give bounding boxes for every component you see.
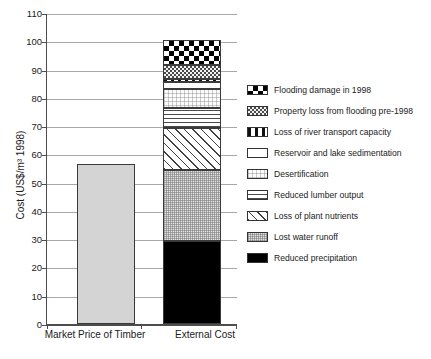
bar-segment-lost-water-runoff[interactable] (163, 170, 221, 241)
y-axis-tick-label-110: 110 (12, 9, 42, 19)
legend-item-label: Desertification (274, 169, 328, 179)
legend-swatch-icon (247, 127, 268, 137)
y-axis-tick (42, 155, 47, 156)
x-axis-label-external-cost: External Cost (140, 329, 270, 340)
bar-segment-reduced-lumber-output[interactable] (163, 108, 221, 128)
legend-item-reduced-lumber-output[interactable]: Reduced lumber output (247, 184, 429, 205)
legend-item-label: Flooding damage in 1998 (274, 85, 371, 95)
y-axis-tick-labels: 0102030405060708090100110 (8, 14, 42, 325)
plot-area (46, 14, 236, 325)
legend-swatch-icon (247, 232, 268, 242)
legend-item-loss-of-river-transport-capacity[interactable]: Loss of river transport capacity (247, 121, 429, 142)
y-axis-tick-label-70: 70 (12, 122, 42, 132)
legend-item-lost-water-runoff[interactable]: Lost water runoff (247, 226, 429, 247)
y-axis-tick (42, 240, 47, 241)
y-axis-tick-label-100: 100 (12, 37, 42, 47)
y-axis-tick (42, 99, 47, 100)
y-axis-tick-label-10: 10 (12, 292, 42, 302)
bar-segment-reservoir-and-lake-sedimentation[interactable] (163, 82, 221, 89)
gridline-0 (47, 325, 237, 326)
legend-item-loss-of-plant-nutrients[interactable]: Loss of plant nutrients (247, 205, 429, 226)
y-axis-tick (42, 14, 47, 15)
y-axis-tick-label-30: 30 (12, 235, 42, 245)
y-axis-tick-label-90: 90 (12, 66, 42, 76)
bar-external-cost[interactable] (163, 40, 221, 324)
legend-swatch-icon (247, 211, 268, 221)
legend-swatch-icon (247, 253, 268, 263)
y-axis-tick-label-60: 60 (12, 150, 42, 160)
y-axis-tick-label-40: 40 (12, 207, 42, 217)
bar-segment-reduced-precipitation[interactable] (163, 241, 221, 324)
y-axis-tick (42, 297, 47, 298)
bar-segment-property-loss-from-flooding-pre-1998[interactable] (163, 65, 221, 79)
y-axis-tick (42, 71, 47, 72)
legend-item-reservoir-and-lake-sedimentation[interactable]: Reservoir and lake sedimentation (247, 142, 429, 163)
bar-segment-market-price[interactable] (77, 164, 135, 324)
chart-figure: Cost (US$/m³ 1998) 010203040506070809010… (0, 0, 431, 359)
legend-swatch-icon (247, 148, 268, 158)
y-axis-tick (42, 42, 47, 43)
legend-item-reduced-precipitation[interactable]: Reduced precipitation (247, 247, 429, 268)
legend-item-label: Lost water runoff (274, 232, 338, 242)
y-axis-tick (42, 127, 47, 128)
legend-swatch-icon (247, 106, 268, 116)
legend-item-desertification[interactable]: Desertification (247, 163, 429, 184)
bar-segment-flooding-damage-in-1998[interactable] (163, 40, 221, 65)
bar-market-price-of-timber[interactable] (77, 164, 135, 324)
y-axis-tick-label-50: 50 (12, 179, 42, 189)
bar-segment-loss-of-river-transport-capacity[interactable] (163, 79, 221, 82)
legend-item-label: Loss of river transport capacity (274, 127, 391, 137)
y-axis-tick (42, 212, 47, 213)
legend-item-property-loss-from-flooding-pre-1998[interactable]: Property loss from flooding pre-1998 (247, 100, 429, 121)
legend-item-label: Reduced precipitation (274, 253, 357, 263)
legend-swatch-icon (247, 85, 268, 95)
legend-item-label: Property loss from flooding pre-1998 (274, 106, 413, 116)
legend-item-label: Reduced lumber output (274, 190, 363, 200)
y-axis-tick (42, 268, 47, 269)
y-axis-tick-label-80: 80 (12, 94, 42, 104)
y-axis-tick (42, 184, 47, 185)
legend-item-label: Loss of plant nutrients (274, 211, 358, 221)
bar-segment-desertification[interactable] (163, 89, 221, 107)
chart-legend: Flooding damage in 1998Property loss fro… (247, 79, 429, 268)
legend-swatch-icon (247, 169, 268, 179)
legend-item-flooding-damage-in-1998[interactable]: Flooding damage in 1998 (247, 79, 429, 100)
legend-swatch-icon (247, 190, 268, 200)
y-axis-tick-label-20: 20 (12, 263, 42, 273)
bar-segment-loss-of-plant-nutrients[interactable] (163, 128, 221, 170)
gridline-110 (47, 14, 237, 15)
legend-item-label: Reservoir and lake sedimentation (274, 148, 402, 158)
